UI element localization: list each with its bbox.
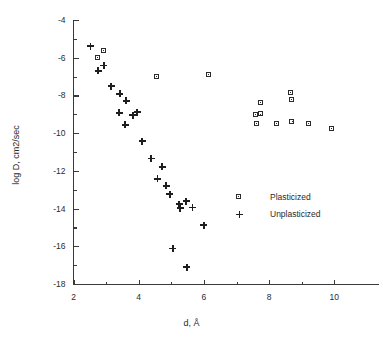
data-point-plasticized [289,97,294,102]
x-tick-label: 2 [59,292,89,302]
y-tick-major [73,95,79,96]
x-tick-label: 10 [319,292,349,302]
data-point-unplasticized [148,155,155,162]
data-point-unplasticized [183,264,190,271]
data-point-unplasticized [154,175,161,182]
data-point-unplasticized [108,83,115,90]
data-point-unplasticized [123,97,130,104]
x-axis-line [73,284,379,285]
data-point-unplasticized [122,121,129,128]
y-tick-major [73,209,79,210]
data-point-plasticized [258,111,263,116]
x-tick-major [269,280,270,285]
x-tick-minor [171,282,172,285]
data-point-plasticized [206,72,211,77]
y-tick-minor [73,265,77,266]
x-tick-label: 6 [189,292,219,302]
x-tick-major [334,280,335,285]
data-point-unplasticized [163,182,170,189]
y-tick-label: -16 [36,241,66,251]
scatter-plot-figure: 246810-4-6-8-10-12-14-16-18 log D, cm2/s… [0,0,383,345]
x-tick-minor [237,282,238,285]
data-point-unplasticized [169,245,176,252]
legend-label: Unplasticized [270,209,321,219]
data-point-plasticized [329,126,334,131]
y-tick-label: -10 [36,128,66,138]
data-point-unplasticized [134,109,141,116]
data-point-plasticized [274,121,279,126]
y-tick-major [73,246,79,247]
data-point-unplasticized [189,204,196,211]
y-tick-major [73,133,79,134]
data-point-unplasticized [100,62,107,69]
y-tick-label: -8 [36,90,66,100]
data-point-plasticized [306,121,311,126]
y-tick-minor [73,114,77,115]
y-tick-major [73,58,79,59]
data-point-plasticized [101,48,106,53]
legend-square-marker-icon [236,194,241,199]
y-tick-minor [73,77,77,78]
data-point-unplasticized [139,138,146,145]
data-point-unplasticized [159,163,166,170]
y-tick-minor [73,227,77,228]
x-tick-label: 4 [124,292,154,302]
legend-plus-marker-icon [236,211,243,218]
y-tick-label: -14 [36,204,66,214]
data-point-unplasticized [87,43,94,50]
y-tick-label: -6 [36,53,66,63]
data-point-plasticized [258,100,263,105]
y-tick-major [73,171,79,172]
y-axis-title: log D, cm2/sec [11,95,21,215]
data-point-plasticized [288,90,293,95]
x-tick-label: 8 [254,292,284,302]
y-tick-minor [73,190,77,191]
data-point-plasticized [254,121,259,126]
x-axis-title: d, Å [0,318,383,328]
data-point-unplasticized [166,191,173,198]
data-point-unplasticized [200,222,207,229]
x-tick-minor [302,282,303,285]
data-point-plasticized [95,55,100,60]
y-tick-major [73,284,79,285]
x-tick-major [139,280,140,285]
data-point-plasticized [289,119,294,124]
x-tick-minor [106,282,107,285]
y-tick-label: -18 [36,279,66,289]
x-tick-major [204,280,205,285]
legend-label: Plasticized [270,192,311,202]
y-tick-label: -4 [36,15,66,25]
data-point-plasticized [154,74,159,79]
y-tick-label: -12 [36,166,66,176]
y-tick-minor [73,152,77,153]
y-tick-minor [73,39,77,40]
data-point-unplasticized [177,205,184,212]
y-tick-major [73,20,79,21]
data-point-unplasticized [116,109,123,116]
